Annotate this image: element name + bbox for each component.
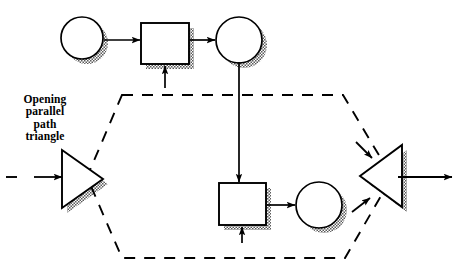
arrow-lower-into-closing-triangle bbox=[352, 198, 370, 212]
rect-top[interactable] bbox=[141, 23, 189, 64]
circle-top-right[interactable] bbox=[216, 17, 262, 63]
triangle-closing[interactable] bbox=[360, 145, 402, 207]
diagram-canvas: Opening parallel path triangle bbox=[0, 0, 459, 279]
rect-bottom[interactable] bbox=[219, 183, 266, 225]
circle-bottom-right[interactable] bbox=[296, 182, 342, 228]
arrow-upper-into-closing-triangle bbox=[356, 142, 372, 158]
opening-triangle-caption: Opening parallel path triangle bbox=[8, 93, 82, 143]
circle-top-left[interactable] bbox=[61, 17, 103, 59]
